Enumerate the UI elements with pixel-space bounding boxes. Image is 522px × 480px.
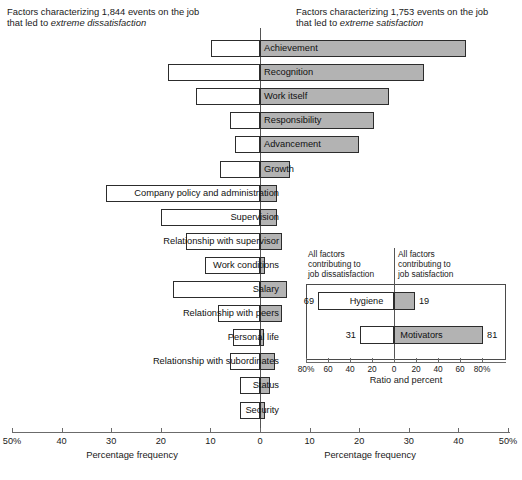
x-axis: 50%4030201001020304050% Percentage frequ…: [0, 432, 522, 434]
x-axis-tick: [111, 428, 112, 433]
bar-segment-dissatisfaction[interactable]: [211, 40, 260, 57]
x-axis-tick: [260, 428, 261, 433]
x-axis-tick-label: 20: [141, 436, 181, 446]
x-axis-tick-label: 30: [91, 436, 131, 446]
inset-caption-satisfaction: All factors contributing to job satisfac…: [398, 249, 490, 279]
caption-dissatisfaction: Factors characterizing 1,844 events on t…: [7, 6, 267, 29]
caption-satisfaction-line2-prefix: that led to: [296, 17, 340, 28]
bar-label: Relationship with supervisor: [0, 233, 282, 250]
x-axis-title-right: Percentage frequency: [270, 449, 470, 460]
bar-row[interactable]: Security: [0, 402, 522, 419]
caption-dissatisfaction-line2-prefix: that led to: [7, 17, 51, 28]
inset-caption-dissatisfaction: All factors contributing to job dissatis…: [308, 249, 394, 279]
x-axis-tick: [12, 428, 13, 433]
x-axis-tick: [458, 428, 459, 433]
x-axis-tick-label: 0: [240, 436, 280, 446]
inset-value-dissatisfaction: 69: [294, 292, 314, 310]
bar-label: Work itself: [264, 88, 307, 105]
bar-row[interactable]: Growth: [0, 161, 522, 178]
inset-axis-title: Ratio and percent: [306, 375, 506, 385]
bar-row[interactable]: Responsibility: [0, 112, 522, 129]
bar-segment-dissatisfaction[interactable]: [235, 136, 260, 153]
bar-label: Responsibility: [264, 112, 321, 129]
inset-axis-tick: [460, 358, 461, 362]
bar-row[interactable]: Advancement: [0, 136, 522, 153]
bar-label: Recognition: [264, 64, 313, 81]
inset-axis-tick: [438, 358, 439, 362]
x-axis-tick: [161, 428, 162, 433]
bar-label: Work conditions: [0, 257, 282, 274]
bar-row[interactable]: Work itself: [0, 88, 522, 105]
bar-label: Security: [0, 402, 282, 419]
bar-segment-dissatisfaction[interactable]: [220, 161, 260, 178]
x-axis-tick: [409, 428, 410, 433]
inset-bar-row[interactable]: Motivators3181: [292, 326, 514, 344]
bar-row[interactable]: Supervision: [0, 209, 522, 226]
inset-value-satisfaction: 81: [487, 326, 497, 344]
x-axis-tick-label: 40: [42, 436, 82, 446]
bar-segment-dissatisfaction[interactable]: [196, 88, 260, 105]
x-axis-tick-label: 20: [339, 436, 379, 446]
caption-satisfaction-emphasis: extreme satisfaction: [340, 17, 423, 28]
inset-axis-tick: [372, 358, 373, 362]
x-axis-title-left: Percentage frequency: [32, 449, 232, 460]
inset-axis-tick: [328, 358, 329, 362]
bar-label: Relationship with subordinates: [0, 353, 282, 370]
inset-value-satisfaction: 19: [419, 292, 429, 310]
caption-dissatisfaction-line1: Factors characterizing 1,844 events on t…: [7, 6, 199, 17]
bar-label: Status: [0, 377, 282, 394]
x-axis-tick-label: 10: [190, 436, 230, 446]
x-axis-tick: [62, 428, 63, 433]
bar-label: Company policy and administration: [0, 185, 282, 202]
bar-label: Salary: [0, 281, 282, 298]
x-axis-tick-label: 50%: [0, 436, 32, 446]
herzberg-two-factor-chart: Factors characterizing 1,844 events on t…: [0, 0, 522, 480]
inset-axis-tick: [350, 358, 351, 362]
bar-row[interactable]: Achievement: [0, 40, 522, 57]
x-axis-tick: [359, 428, 360, 433]
inset-bar-row[interactable]: Hygiene6919: [292, 292, 514, 310]
bar-label: Growth: [264, 161, 294, 178]
bar-label: Personal life: [0, 329, 282, 346]
inset-axis-tick: [416, 358, 417, 362]
bar-segment-dissatisfaction[interactable]: [168, 64, 260, 81]
bar-label: Advancement: [264, 136, 321, 153]
inset-axis-tick-label: 80%: [469, 364, 495, 374]
bar-row[interactable]: Company policy and administration: [0, 185, 522, 202]
inset-bar-label: Motivators: [360, 326, 483, 344]
inset-axis-tick: [394, 358, 395, 362]
caption-dissatisfaction-emphasis: extreme dissatisfaction: [51, 17, 146, 28]
x-axis-tick: [310, 428, 311, 433]
x-axis-tick-label: 40: [438, 436, 478, 446]
x-axis-tick: [210, 428, 211, 433]
inset-value-dissatisfaction: 31: [336, 326, 356, 344]
caption-satisfaction: Factors characterizing 1,753 events on t…: [296, 6, 518, 29]
inset-axis-tick: [482, 358, 483, 362]
inset-bar-label: Hygiene: [318, 292, 415, 310]
inset-axis-tick: [306, 358, 307, 362]
bar-label: Relationship with peers: [0, 305, 282, 322]
x-axis-tick: [508, 428, 509, 433]
x-axis-tick-label: 50%: [488, 436, 522, 446]
bar-segment-dissatisfaction[interactable]: [230, 112, 260, 129]
caption-satisfaction-line1: Factors characterizing 1,753 events on t…: [296, 6, 488, 17]
x-axis-tick-label: 10: [290, 436, 330, 446]
bar-label: Achievement: [264, 40, 318, 57]
inset-ratio-chart: All factors contributing to job dissatis…: [292, 248, 514, 382]
bar-label: Supervision: [0, 209, 282, 226]
bar-row[interactable]: Recognition: [0, 64, 522, 81]
inset-axis-line: [306, 362, 506, 363]
x-axis-tick-label: 30: [389, 436, 429, 446]
